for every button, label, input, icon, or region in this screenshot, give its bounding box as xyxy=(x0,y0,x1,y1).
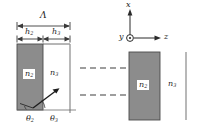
n3-label-left-sub: 3 xyxy=(55,71,58,77)
repetition-ellipsis xyxy=(80,68,126,95)
period-label: Λ xyxy=(40,11,47,20)
h3-label: h3 xyxy=(52,28,60,36)
n2-label-right-sub: 2 xyxy=(144,83,147,89)
z-axis-label: z xyxy=(164,33,168,41)
n2-label-left: n2 xyxy=(23,69,35,79)
diagram-canvas xyxy=(0,0,198,131)
h2-label-sub: 2 xyxy=(30,30,33,36)
n3-label-right-sub: 3 xyxy=(173,82,176,88)
theta3-label-sub: 3 xyxy=(55,117,58,123)
n2-label-right: n2 xyxy=(137,80,149,90)
h2-label: h2 xyxy=(25,28,33,36)
theta2-label-sub: 2 xyxy=(31,117,34,123)
theta3-label: θ3 xyxy=(50,115,58,123)
n3-label-right: n3 xyxy=(168,80,176,88)
theta2-label: θ2 xyxy=(26,115,34,123)
h2-dimension xyxy=(17,36,43,43)
grating-diagram: Λ h2 h3 n2 n3 θ2 θ3 n2 n3 x y z xyxy=(0,0,198,131)
coordinate-axes xyxy=(127,9,161,41)
h3-label-sub: 3 xyxy=(57,30,60,36)
n3-label-left: n3 xyxy=(50,69,58,77)
y-axis-label: y xyxy=(119,33,124,41)
h3-dimension xyxy=(43,36,70,43)
x-axis-label: x xyxy=(126,1,131,9)
n2-label-left-sub: 2 xyxy=(30,72,33,78)
